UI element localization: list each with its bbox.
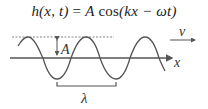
- amplitude-label: A: [61, 43, 70, 57]
- wavelength-bracket: [57, 82, 116, 86]
- wavelength-label: λ: [81, 91, 88, 106]
- velocity-label: v: [179, 25, 185, 39]
- wave-diagram: h(x, t) = A cos(kx − ωt) A v x λ: [0, 0, 208, 109]
- x-axis-label: x: [174, 56, 180, 70]
